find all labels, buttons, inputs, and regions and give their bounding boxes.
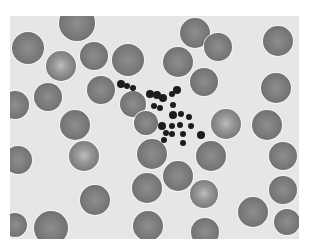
platelet xyxy=(197,131,205,139)
red-blood-cell xyxy=(80,42,108,70)
platelet xyxy=(169,91,175,97)
red-blood-cell xyxy=(269,176,297,204)
platelet xyxy=(159,94,167,102)
red-blood-cell xyxy=(132,173,162,203)
red-blood-cell xyxy=(261,73,291,103)
platelet xyxy=(169,123,175,129)
red-blood-cell xyxy=(59,16,95,41)
platelet xyxy=(157,105,163,111)
red-blood-cell xyxy=(87,76,115,104)
platelet xyxy=(180,140,186,146)
red-blood-cell xyxy=(190,180,218,208)
red-blood-cell xyxy=(137,139,167,169)
red-blood-cell xyxy=(69,141,99,171)
platelet xyxy=(161,137,167,143)
red-blood-cell xyxy=(163,161,193,191)
red-blood-cell xyxy=(274,209,299,235)
red-blood-cell xyxy=(204,33,232,61)
red-blood-cell xyxy=(211,109,241,139)
red-blood-cell xyxy=(191,218,219,239)
platelet xyxy=(178,111,184,117)
red-blood-cell xyxy=(269,142,297,170)
platelet xyxy=(177,122,183,128)
red-blood-cell xyxy=(12,32,44,64)
red-blood-cell xyxy=(196,141,226,171)
red-blood-cell xyxy=(46,51,76,81)
platelet xyxy=(170,102,176,108)
red-blood-cell xyxy=(190,68,218,96)
red-blood-cell xyxy=(134,111,158,135)
micrograph xyxy=(10,16,299,239)
platelet xyxy=(188,123,194,129)
platelet xyxy=(186,114,192,120)
red-blood-cell xyxy=(10,213,27,237)
red-blood-cell xyxy=(10,146,32,174)
platelet xyxy=(169,131,175,137)
platelet xyxy=(130,85,136,91)
red-blood-cell xyxy=(10,91,29,119)
red-blood-cell xyxy=(163,47,193,77)
red-blood-cell xyxy=(34,211,68,239)
platelet xyxy=(163,130,169,136)
platelet xyxy=(180,131,186,137)
red-blood-cell xyxy=(34,83,62,111)
platelet xyxy=(158,122,166,130)
red-blood-cell xyxy=(80,185,110,215)
red-blood-cell xyxy=(263,26,293,56)
red-blood-cell xyxy=(133,211,163,239)
red-blood-cell xyxy=(252,110,282,140)
red-blood-cell xyxy=(60,110,90,140)
red-blood-cell xyxy=(112,44,144,76)
platelet xyxy=(169,111,177,119)
red-blood-cell xyxy=(238,197,268,227)
